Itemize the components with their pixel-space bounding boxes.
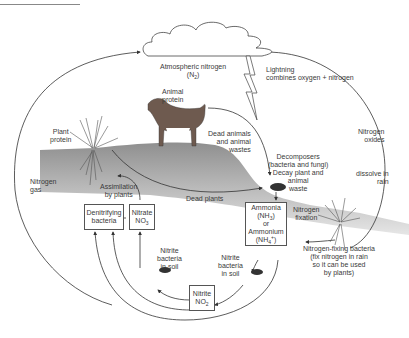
nitrite-bacteria-left-label: Nitrite bacteria in soil bbox=[157, 247, 182, 271]
nitrogen-gas-label: Nitrogen gas bbox=[30, 178, 56, 194]
lightning-icon bbox=[244, 56, 257, 120]
bacteria-right-icon bbox=[251, 269, 263, 275]
dissolve-in-rain-label: dissolve in rain bbox=[356, 170, 389, 186]
lightning-label: Lightning combines oxygen + nitrogen bbox=[266, 66, 354, 82]
nitrite-box: Nitrite NO2 bbox=[189, 285, 215, 311]
nitrogen-oxides-label: Nitrogen oxides bbox=[358, 128, 384, 144]
dead-plants-label: Dead plants bbox=[186, 195, 223, 203]
nitrogen-fixing-bacteria-label: Nitrogen-fixing bacteria (fix nitrogen i… bbox=[303, 245, 375, 277]
nitrite-bacteria-right-label: Nitrite bacteria in soil bbox=[218, 254, 243, 278]
assimilation-label: Assimilation by plants bbox=[100, 183, 137, 199]
goat-icon bbox=[148, 98, 205, 146]
nitrogen-fixation-label: Nitrogen fixation bbox=[293, 206, 319, 222]
dead-animals-label: Dead animals and animal wastes bbox=[208, 130, 251, 154]
nitrate-box: Nitrate NO3 bbox=[129, 204, 155, 230]
denitrifying-bacteria-box: Denitrifying bacteria bbox=[84, 204, 124, 230]
plant-protein-label: Plant protein bbox=[50, 128, 71, 144]
cloud-icon bbox=[143, 22, 272, 56]
decomposers-label: Decomposers (bacteria and fungi) Decay p… bbox=[268, 153, 328, 193]
atmospheric-nitrogen-label: Atmospheric nitrogen (N2) bbox=[160, 63, 226, 79]
ammonia-box: Ammonia (NH3) or Ammonium (NH4+) bbox=[245, 202, 287, 246]
animal-protein-label: Animal protein bbox=[162, 88, 183, 104]
